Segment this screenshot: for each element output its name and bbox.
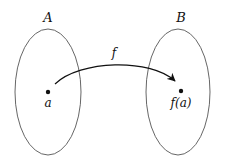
set-a: A a [15,10,81,155]
set-b-ellipse [146,29,210,155]
element-a-label: a [44,96,51,110]
set-b-label: B [175,10,186,25]
element-fa-dot [179,89,183,93]
set-a-label: A [42,10,52,25]
element-fa-label: f(a) [170,96,192,110]
function-mapping-diagram: A a B f(a) f [0,0,225,165]
mapping-label: f [111,46,119,60]
element-a-dot [46,90,50,94]
set-b: B f(a) [146,10,210,155]
arrow-icon [55,65,175,84]
